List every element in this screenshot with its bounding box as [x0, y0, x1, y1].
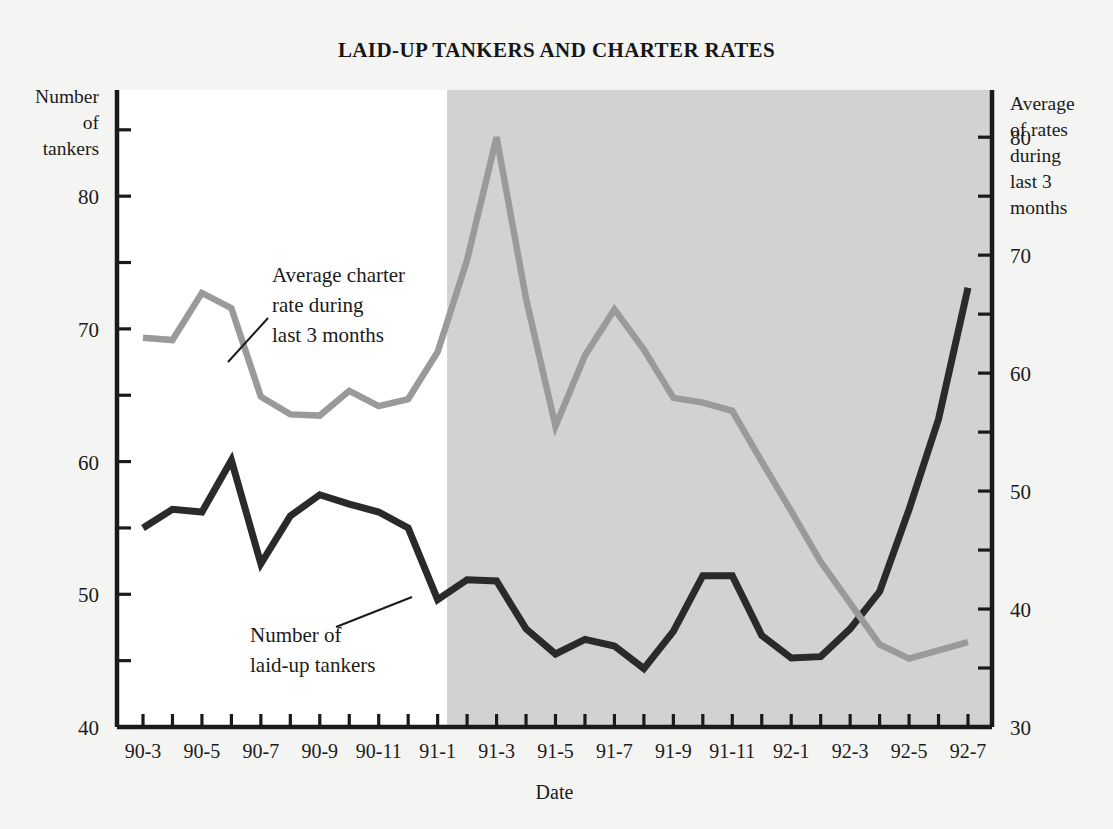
y-tick-label-left: 50	[78, 583, 99, 607]
y-axis-title-left-line: tankers	[43, 138, 99, 159]
x-tick-label: 90-11	[356, 740, 402, 762]
x-tick-label: 90-7	[243, 740, 280, 762]
annotation-text-line: last 3 months	[272, 323, 384, 347]
y-axis-title-right-line: during	[1010, 145, 1061, 166]
x-tick-label: 91-9	[655, 740, 692, 762]
x-axis-title: Date	[536, 781, 574, 803]
x-tick-label: 92-5	[891, 740, 928, 762]
y-axis-title-right: Averageof ratesduringlast 3months	[1010, 93, 1075, 218]
y-tick-label-right: 30	[1010, 716, 1031, 740]
y-axis-title-left: Numberoftankers	[35, 86, 99, 159]
chart-plot-area: 405060708030405060708090-390-590-790-990…	[0, 0, 1113, 829]
y-tick-label-left: 80	[78, 185, 99, 209]
annotation-text-line: rate during	[272, 293, 364, 317]
y-axis-title-right-line: of rates	[1010, 119, 1068, 140]
y-axis-title-right-line: last 3	[1010, 171, 1052, 192]
annotation-text-line: Average charter	[272, 263, 405, 287]
x-tick-label: 91-3	[478, 740, 515, 762]
y-axis-title-left-line: Number	[35, 86, 99, 107]
y-axis-title-right-line: Average	[1010, 93, 1075, 114]
x-tick-label: 91-5	[537, 740, 574, 762]
x-tick-label: 91-11	[709, 740, 755, 762]
y-tick-label-right: 50	[1010, 480, 1031, 504]
y-tick-label-right: 40	[1010, 598, 1031, 622]
annotation-text-line: Number of	[250, 623, 342, 647]
y-axis-title-right-line: months	[1010, 197, 1067, 218]
x-tick-label: 92-3	[832, 740, 869, 762]
x-tick-label: 92-1	[773, 740, 810, 762]
y-tick-label-left: 60	[78, 451, 99, 475]
y-axis-title-left-line: of	[83, 112, 100, 133]
annotation-text-line: laid-up tankers	[250, 653, 375, 677]
x-tick-label: 92-7	[950, 740, 987, 762]
y-tick-label-right: 70	[1010, 244, 1031, 268]
x-tick-label: 91-1	[419, 740, 456, 762]
y-tick-label-left: 40	[78, 716, 99, 740]
y-tick-label-left: 70	[78, 318, 99, 342]
x-tick-label: 90-5	[184, 740, 221, 762]
y-tick-label-right: 60	[1010, 362, 1031, 386]
chart-page: LAID-UP TANKERS AND CHARTER RATES 405060…	[0, 0, 1113, 829]
x-tick-label: 90-3	[125, 740, 162, 762]
x-tick-label: 90-9	[301, 740, 338, 762]
x-tick-label: 91-7	[596, 740, 633, 762]
